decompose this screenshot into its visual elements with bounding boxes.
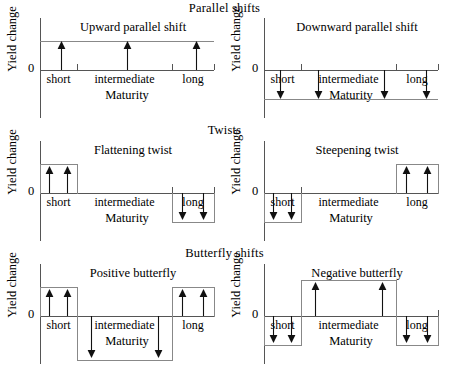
zero-label: 0 <box>252 308 258 321</box>
y-axis-label: Yield change <box>229 1 243 77</box>
segment-label-intermediate: intermediate <box>319 72 379 87</box>
shift-arrow-1 <box>314 70 323 99</box>
zero-label: 0 <box>252 62 258 75</box>
shift-arrow-0 <box>57 41 66 70</box>
shift-arrow-3 <box>422 70 431 99</box>
shift-arrow-long-1 <box>402 166 411 193</box>
maturity-label: Maturity <box>105 211 149 226</box>
segment-label-long: long <box>406 195 427 210</box>
segment-label-intermediate: intermediate <box>319 318 379 333</box>
panel-negative-butterfly: Yield change0shortintermediatelongMaturi… <box>224 260 448 368</box>
panel-title: Negative butterfly <box>311 266 402 281</box>
shift-arrow-intermediate-1 <box>311 282 320 316</box>
zero-label: 0 <box>28 308 34 321</box>
shift-arrow-short-2 <box>287 193 296 220</box>
panel-downward-parallel-shift: Yield change0shortintermediatelongMaturi… <box>224 14 448 122</box>
axis-tick-0 <box>40 64 41 70</box>
shift-arrow-short-1 <box>45 289 54 316</box>
maturity-label: Maturity <box>329 211 373 226</box>
panel-title: Downward parallel shift <box>296 20 418 35</box>
maturity-label: Maturity <box>329 88 373 103</box>
shift-arrow-long-2 <box>423 166 432 193</box>
shift-arrow-intermediate-1 <box>87 316 96 358</box>
shift-arrow-2 <box>192 41 201 70</box>
yield-curve-shifts-figure: Parallel shifts Twists Butterfly shifts … <box>0 0 449 368</box>
segment-label-short: short <box>47 72 71 87</box>
y-axis-label: Yield change <box>229 247 243 323</box>
shift-arrow-long-2 <box>199 193 208 220</box>
axis-tick-2 <box>172 64 173 70</box>
maturity-label: Maturity <box>105 88 149 103</box>
maturity-axis-line <box>264 70 438 71</box>
panel-title: Flattening twist <box>94 143 172 158</box>
segment-label-long: long <box>182 72 203 87</box>
axis-tick-1 <box>77 64 78 70</box>
shift-arrow-1 <box>123 41 132 70</box>
axis-tick-3 <box>438 64 439 70</box>
panel-flattening-twist: Yield change0shortintermediatelongMaturi… <box>0 137 224 245</box>
section-title-butterfly-shifts: Butterfly shifts <box>0 246 449 261</box>
panel-title: Upward parallel shift <box>80 20 186 35</box>
shift-arrow-intermediate-2 <box>154 316 163 358</box>
panel-positive-butterfly: Yield change0shortintermediatelongMaturi… <box>0 260 224 368</box>
y-axis-label: Yield change <box>5 247 19 323</box>
shift-arrow-short-1 <box>45 166 54 193</box>
parallel-shift-line <box>264 99 438 100</box>
shift-arrow-long-1 <box>402 316 411 343</box>
shift-arrow-short-2 <box>63 166 72 193</box>
segment-label-intermediate: intermediate <box>319 195 379 210</box>
segment-label-long: long <box>182 318 203 333</box>
y-axis-label: Yield change <box>5 1 19 77</box>
shift-arrow-long-2 <box>423 316 432 343</box>
shift-arrow-long-2 <box>199 289 208 316</box>
panel-title: Steepening twist <box>316 143 399 158</box>
panel-title: Positive butterfly <box>90 266 176 281</box>
panel-steepening-twist: Yield change0shortintermediatelongMaturi… <box>224 137 448 245</box>
segment-label-intermediate: intermediate <box>95 72 155 87</box>
shift-arrow-intermediate-2 <box>378 282 387 316</box>
shift-arrow-short-1 <box>269 316 278 343</box>
section-title-twists: Twists <box>0 123 449 138</box>
shift-arrow-short-2 <box>287 316 296 343</box>
y-axis-label: Yield change <box>5 124 19 200</box>
maturity-label: Maturity <box>329 334 373 349</box>
shift-arrow-short-2 <box>63 289 72 316</box>
zero-label: 0 <box>28 185 34 198</box>
segment-label-short: short <box>47 318 71 333</box>
shift-arrow-2 <box>380 70 389 99</box>
shift-arrow-long-1 <box>178 193 187 220</box>
maturity-axis-line <box>40 70 214 71</box>
segment-label-short: short <box>47 195 71 210</box>
shift-arrow-long-1 <box>178 289 187 316</box>
axis-tick-1 <box>301 64 302 70</box>
zero-label: 0 <box>252 185 258 198</box>
axis-tick-0 <box>264 64 265 70</box>
y-axis-label: Yield change <box>229 124 243 200</box>
shift-arrow-0 <box>276 70 285 99</box>
zero-label: 0 <box>28 62 34 75</box>
panel-upward-parallel-shift: Yield change0shortintermediatelongMaturi… <box>0 14 224 122</box>
axis-tick-2 <box>396 64 397 70</box>
axis-tick-3 <box>214 64 215 70</box>
segment-label-intermediate: intermediate <box>95 195 155 210</box>
shift-arrow-short-1 <box>269 193 278 220</box>
